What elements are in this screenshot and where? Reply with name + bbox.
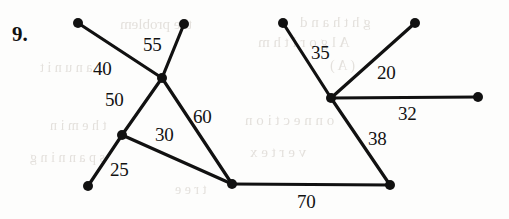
edge-weight-label: 38 bbox=[368, 128, 386, 150]
graph-edges bbox=[78, 23, 478, 186]
graph-edge bbox=[331, 23, 415, 98]
graph-edge bbox=[162, 24, 184, 78]
graph-node bbox=[179, 19, 189, 29]
graph-node bbox=[227, 179, 237, 189]
graph-edge bbox=[232, 184, 390, 185]
graph-node bbox=[410, 18, 420, 28]
item-number: 9. bbox=[12, 22, 28, 47]
edge-weight-label: 30 bbox=[155, 124, 173, 146]
graph-node bbox=[473, 92, 483, 102]
graph-node bbox=[83, 181, 93, 191]
graph-node bbox=[326, 93, 336, 103]
edge-weight-label: 40 bbox=[93, 58, 111, 80]
graph-diagram bbox=[0, 0, 509, 219]
graph-node bbox=[385, 180, 395, 190]
edge-weight-label: 70 bbox=[297, 191, 315, 213]
edge-weight-label: 35 bbox=[311, 42, 329, 64]
figure-container: the problemg h t h a n da n u n i tA l g… bbox=[0, 0, 509, 219]
graph-node bbox=[278, 18, 288, 28]
edge-weight-label: 32 bbox=[398, 103, 416, 125]
graph-edge bbox=[331, 97, 478, 98]
graph-node bbox=[73, 18, 83, 28]
graph-nodes bbox=[73, 18, 483, 191]
edge-weight-label: 50 bbox=[105, 89, 123, 111]
graph-node bbox=[117, 130, 127, 140]
edge-weight-label: 55 bbox=[143, 34, 161, 56]
edge-weight-label: 25 bbox=[110, 159, 128, 181]
graph-node bbox=[157, 73, 167, 83]
edge-weight-label: 20 bbox=[377, 62, 395, 84]
edge-weight-label: 60 bbox=[193, 106, 211, 128]
